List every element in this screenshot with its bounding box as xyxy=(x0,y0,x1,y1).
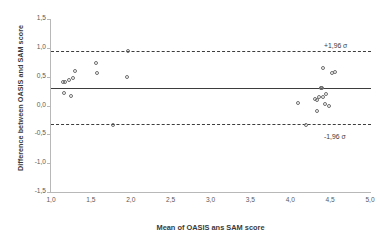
x-tick-label: 2,0 xyxy=(116,196,146,203)
label-lower-loa: -1,96 σ xyxy=(324,133,346,140)
data-point xyxy=(95,71,99,75)
x-tick-label: 3,5 xyxy=(235,196,265,203)
y-tick-label: 1,5 xyxy=(20,14,46,21)
data-point xyxy=(67,78,71,82)
data-point xyxy=(321,66,325,70)
bland-altman-chart: Difference between OASIS and SAM score 1… xyxy=(0,0,390,242)
data-point xyxy=(125,75,129,79)
data-point xyxy=(296,101,300,105)
y-axis-line xyxy=(50,19,51,193)
x-tick-label: 5,0 xyxy=(355,196,385,203)
x-tick-label: 1,0 xyxy=(36,196,66,203)
y-tick-label: 1,0 xyxy=(20,43,46,50)
label-upper-loa: +1,96 σ xyxy=(324,42,347,49)
data-point xyxy=(304,123,308,127)
refline-lower-loa xyxy=(51,124,371,125)
y-tick-mark xyxy=(47,134,50,135)
data-point xyxy=(333,70,337,74)
data-point xyxy=(324,92,328,96)
x-tick-label: 2,5 xyxy=(156,196,186,203)
data-point xyxy=(323,102,327,106)
y-tick-label: 0,5 xyxy=(20,72,46,79)
data-point xyxy=(126,49,130,53)
data-point xyxy=(315,109,319,113)
y-tick-mark xyxy=(47,19,50,20)
data-point xyxy=(62,91,66,95)
x-axis-label: Mean of OASIS ans SAM score xyxy=(51,223,370,232)
data-point xyxy=(69,94,73,98)
plot-area: 1,51,00,50,0-0,5-1,0-1,5 1,01,52,02,53,0… xyxy=(51,19,370,192)
y-tick-label: -0,5 xyxy=(20,129,46,136)
x-tick-label: 3,0 xyxy=(196,196,226,203)
y-tick-label: 0,0 xyxy=(20,101,46,108)
y-tick-mark xyxy=(47,163,50,164)
y-tick-mark xyxy=(47,192,50,193)
y-tick-label: -1,0 xyxy=(20,158,46,165)
data-point xyxy=(94,61,98,65)
y-tick-mark xyxy=(47,77,50,78)
data-point xyxy=(327,104,331,108)
x-axis-line xyxy=(50,192,371,193)
x-tick-label: 4,0 xyxy=(275,196,305,203)
refline-upper-loa xyxy=(51,51,371,52)
y-tick-mark xyxy=(47,48,50,49)
data-point xyxy=(111,123,115,127)
x-tick-label: 1,5 xyxy=(76,196,106,203)
y-tick-mark xyxy=(47,106,50,107)
x-tick-label: 4,5 xyxy=(315,196,345,203)
y-tick-label: -1,5 xyxy=(20,187,46,194)
data-point xyxy=(71,76,75,80)
y-axis-label: Difference between OASIS and SAM score xyxy=(14,0,28,198)
data-point xyxy=(73,69,77,73)
